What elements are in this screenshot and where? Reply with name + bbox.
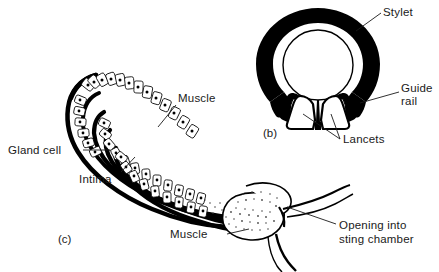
muscle-lower-label: Muscle [170, 228, 208, 240]
intima-label: Intima [79, 173, 112, 185]
figure-root: (b) Stylet Guide rail Lancets [0, 0, 439, 272]
sting-apparatus-diagram: (b) Stylet Guide rail Lancets [0, 0, 439, 272]
gland-cell-label: Gland cell [8, 144, 61, 156]
guide-rail-label-line1: Guide [401, 82, 433, 94]
panel-c-caption: (c) [58, 233, 72, 245]
lancet-cleft [317, 100, 319, 122]
stylet-lumen [283, 30, 353, 100]
muscle-upper-label: Muscle [178, 92, 216, 104]
sting-chamber-label-line1: Opening into [339, 219, 407, 231]
stylet-label: Stylet [383, 6, 414, 18]
panel-b-caption: (b) [263, 127, 277, 139]
sting-chamber-label-line2: sting chamber [339, 233, 414, 245]
lancets-label: Lancets [343, 133, 385, 145]
guide-rail-label-line2: rail [401, 95, 417, 107]
